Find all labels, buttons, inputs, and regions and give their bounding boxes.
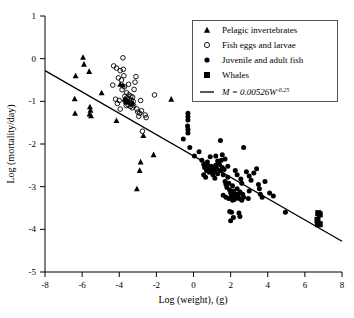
data-point-filled-circle (181, 136, 186, 141)
y-tick-label: -1 (29, 96, 37, 106)
data-point-filled-circle (185, 130, 190, 135)
data-point-open-circle (132, 87, 137, 92)
data-point-open-circle (120, 88, 125, 93)
x-tick-label: 0 (191, 280, 196, 290)
data-point-open-circle (152, 93, 157, 98)
data-point-triangle (80, 54, 86, 60)
data-point-filled-circle (254, 166, 259, 171)
legend-marker-filled-circle (204, 57, 209, 62)
data-point-square (317, 211, 323, 217)
data-point-filled-circle (246, 196, 251, 201)
data-point-filled-circle (212, 176, 217, 181)
data-point-filled-circle (185, 118, 190, 123)
series-juvenile-and-adult-fish (181, 111, 288, 224)
x-tick-label: -8 (41, 280, 49, 290)
legend-marker-square (204, 72, 210, 78)
data-point-filled-circle (238, 176, 243, 181)
data-point-filled-circle (244, 169, 249, 174)
data-point-open-circle (110, 83, 115, 88)
figure-container: 10-1-2-3-4-5 -8-6-4-202468 Log (mortalit… (0, 0, 354, 318)
data-point-filled-circle (227, 209, 232, 214)
data-point-open-circle (134, 74, 139, 79)
y-tick-label: 1 (32, 11, 37, 21)
legend-item-label: Juvenile and adult fish (222, 55, 304, 65)
data-point-filled-circle (237, 214, 242, 219)
data-point-filled-circle (271, 194, 276, 199)
data-point-open-circle (138, 98, 143, 103)
series-pelagic-invertebrates (72, 54, 174, 191)
y-tick-label: -4 (29, 224, 37, 234)
x-axis-ticks: -8-6-4-202468 (41, 272, 345, 290)
legend: Pelagic invertebratesFish eggs and larva… (193, 21, 338, 102)
data-point-triangle (134, 186, 140, 192)
x-tick-label: 4 (266, 280, 271, 290)
data-point-open-circle (136, 114, 141, 119)
data-point-filled-circle (249, 178, 254, 183)
data-point-triangle (86, 68, 92, 74)
x-tick-label: -2 (153, 280, 161, 290)
data-point-filled-circle (230, 183, 235, 188)
data-point-triangle (72, 96, 78, 102)
y-tick-label: -5 (29, 267, 37, 277)
data-point-filled-circle (225, 164, 230, 169)
data-point-open-circle (122, 73, 127, 78)
data-point-filled-circle (241, 145, 246, 150)
data-point-open-circle (121, 56, 126, 61)
data-point-filled-circle (218, 138, 223, 143)
data-point-filled-circle (223, 156, 228, 161)
y-tick-label: -2 (29, 139, 37, 149)
y-axis-ticks: 10-1-2-3-4-5 (29, 11, 46, 277)
data-point-filled-circle (241, 195, 246, 200)
data-point-filled-circle (187, 145, 192, 150)
data-point-triangle (138, 159, 144, 165)
data-point-open-circle (133, 80, 138, 85)
data-point-filled-circle (208, 154, 213, 159)
data-point-filled-circle (262, 179, 267, 184)
data-point-filled-circle (228, 218, 233, 223)
data-point-filled-circle (203, 175, 208, 180)
legend-item-label: Pelagic invertebrates (222, 25, 298, 35)
x-tick-label: 6 (303, 280, 308, 290)
x-axis-title: Log (weight), (g) (158, 294, 227, 306)
data-point-triangle (114, 117, 120, 123)
legend-item-label: Whales (222, 70, 249, 80)
data-point-open-circle (135, 107, 140, 112)
data-point-triangle (151, 152, 157, 158)
data-point-filled-circle (233, 168, 238, 173)
data-point-triangle (168, 96, 174, 102)
data-point-filled-circle (197, 149, 202, 154)
data-point-triangle (137, 167, 143, 173)
data-point-filled-circle (247, 174, 252, 179)
data-point-triangle (99, 90, 105, 96)
data-point-filled-circle (235, 172, 240, 177)
data-point-triangle (73, 73, 79, 79)
data-point-filled-circle (283, 210, 288, 215)
data-point-filled-circle (257, 186, 262, 191)
scatter-plot: 10-1-2-3-4-5 -8-6-4-202468 Log (mortalit… (0, 0, 354, 318)
data-point-filled-circle (256, 182, 261, 187)
x-tick-label: 8 (340, 280, 345, 290)
series-whales (314, 210, 322, 227)
data-point-triangle (81, 61, 87, 67)
data-point-open-circle (118, 107, 123, 112)
data-point-filled-circle (251, 171, 256, 176)
x-tick-label: -6 (78, 280, 86, 290)
data-point-square (317, 221, 323, 227)
data-point-filled-circle (220, 152, 225, 157)
data-point-filled-circle (232, 197, 237, 202)
data-point-open-circle (140, 129, 145, 134)
y-axis-title: Log (mortality/day) (5, 104, 17, 183)
data-point-filled-circle (222, 167, 227, 172)
data-point-open-circle (126, 82, 131, 87)
data-point-triangle (72, 110, 78, 116)
data-point-filled-circle (215, 159, 220, 164)
x-tick-label: 2 (228, 280, 233, 290)
data-point-filled-circle (213, 153, 218, 158)
legend-item-label: Fish eggs and larvae (222, 40, 296, 50)
x-tick-label: -4 (116, 280, 124, 290)
y-tick-label: -3 (29, 182, 37, 192)
y-tick-label: 0 (32, 54, 37, 64)
